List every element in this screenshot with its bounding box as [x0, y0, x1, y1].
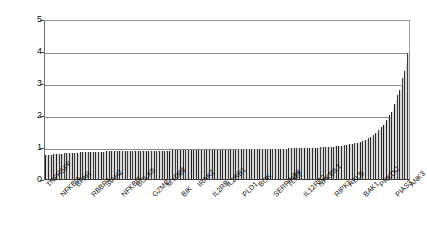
y-axis-tick-label: 4: [20, 47, 42, 56]
x-axis-tick-label: BIK: [180, 185, 194, 199]
bar: [409, 46, 410, 179]
y-axis-tick-label: 3: [20, 79, 42, 88]
plot-area: [44, 20, 410, 180]
x-axis-labels: TNFRSFFNFKBIABFARRBBP4SIAH2NFKBIFBCLXSGZ…: [0, 181, 424, 250]
bars-container: [45, 21, 409, 179]
y-axis-tick-label: 1: [20, 143, 42, 152]
y-axis-tick-label: 2: [20, 111, 42, 120]
x-axis-tick-label: ANK3: [408, 170, 427, 189]
y-axis-tick-label: 5: [20, 15, 42, 24]
